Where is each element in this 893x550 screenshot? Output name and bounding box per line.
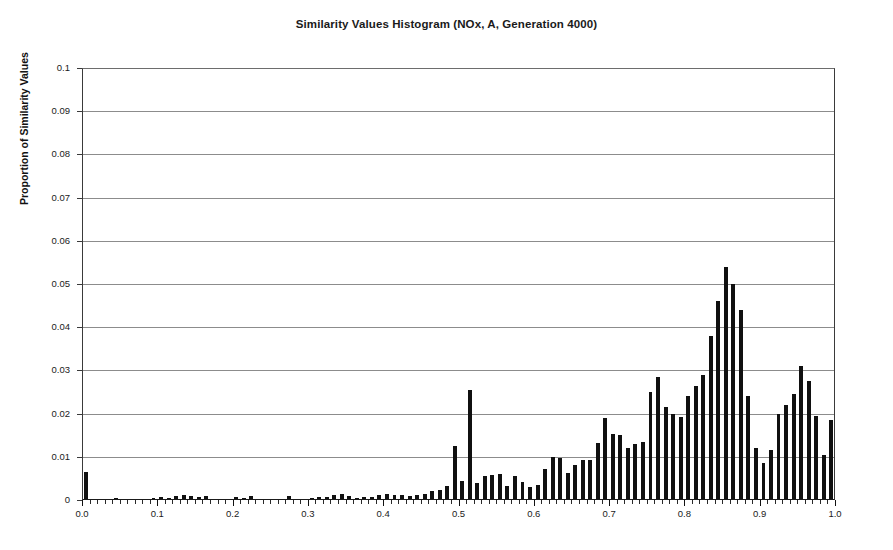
- x-tick-mark: [632, 500, 633, 504]
- x-tick-mark: [587, 500, 588, 504]
- plot-area: [82, 68, 835, 500]
- x-tick-mark: [820, 500, 821, 504]
- y-tick-mark: [77, 284, 82, 285]
- x-tick-mark: [692, 500, 693, 504]
- x-tick-mark: [481, 500, 482, 504]
- x-tick-mark: [669, 500, 670, 504]
- x-tick-mark: [398, 500, 399, 504]
- x-tick-mark: [767, 500, 768, 504]
- x-tick-mark: [428, 500, 429, 504]
- x-tick-mark: [120, 500, 121, 504]
- x-tick-mark: [240, 500, 241, 504]
- x-tick-mark: [662, 500, 663, 504]
- x-tick-mark: [421, 500, 422, 504]
- x-tick-mark-major: [383, 500, 384, 506]
- x-tick-mark: [677, 500, 678, 504]
- x-tick-mark: [285, 500, 286, 504]
- plot-frame: [82, 68, 835, 500]
- y-tick-mark: [77, 370, 82, 371]
- x-tick-mark: [602, 500, 603, 504]
- x-tick-label: 0.4: [363, 508, 403, 519]
- x-tick-mark: [737, 500, 738, 504]
- x-tick-mark: [376, 500, 377, 504]
- x-tick-mark: [255, 500, 256, 504]
- x-tick-mark: [504, 500, 505, 504]
- x-tick-mark: [797, 500, 798, 504]
- x-tick-mark: [210, 500, 211, 504]
- x-tick-label: 0.3: [288, 508, 328, 519]
- x-tick-label: 0.5: [439, 508, 479, 519]
- x-tick-mark: [556, 500, 557, 504]
- x-tick-mark-major: [82, 500, 83, 506]
- y-tick-label: 0: [6, 495, 70, 505]
- y-tick-label: 0.04: [6, 322, 70, 332]
- x-tick-mark: [225, 500, 226, 504]
- x-tick-mark: [617, 500, 618, 504]
- x-tick-mark: [451, 500, 452, 504]
- x-tick-mark: [248, 500, 249, 504]
- x-tick-mark: [707, 500, 708, 504]
- x-tick-mark: [647, 500, 648, 504]
- x-tick-mark: [391, 500, 392, 504]
- x-tick-mark: [579, 500, 580, 504]
- x-tick-mark: [730, 500, 731, 504]
- x-tick-mark: [654, 500, 655, 504]
- x-tick-mark-major: [835, 500, 836, 506]
- x-tick-mark: [805, 500, 806, 504]
- x-tick-mark: [571, 500, 572, 504]
- x-tick-mark: [165, 500, 166, 504]
- x-tick-mark: [172, 500, 173, 504]
- x-tick-mark: [90, 500, 91, 504]
- x-tick-mark: [300, 500, 301, 504]
- x-tick-mark: [368, 500, 369, 504]
- y-tick-label: 0.01: [6, 452, 70, 462]
- x-tick-mark: [413, 500, 414, 504]
- x-tick-mark: [722, 500, 723, 504]
- x-tick-mark: [752, 500, 753, 504]
- y-axis-tick-labels: 0.10.090.080.070.060.050.040.030.020.010: [0, 68, 76, 500]
- x-tick-label: 0.2: [213, 508, 253, 519]
- x-tick-mark: [346, 500, 347, 504]
- y-tick-mark: [77, 500, 82, 501]
- x-tick-mark: [263, 500, 264, 504]
- x-tick-mark: [564, 500, 565, 504]
- x-tick-mark: [406, 500, 407, 504]
- x-tick-mark: [150, 500, 151, 504]
- x-tick-mark: [270, 500, 271, 504]
- x-tick-mark: [526, 500, 527, 504]
- x-tick-label: 0.9: [740, 508, 780, 519]
- x-tick-mark-major: [534, 500, 535, 506]
- y-tick-mark: [77, 111, 82, 112]
- histogram-chart: Similarity Values Histogram (NOx, A, Gen…: [0, 0, 893, 550]
- x-tick-mark: [699, 500, 700, 504]
- x-tick-mark: [443, 500, 444, 504]
- y-tick-mark: [77, 241, 82, 242]
- x-tick-mark: [549, 500, 550, 504]
- y-tick-mark: [77, 68, 82, 69]
- x-tick-label: 0.8: [664, 508, 704, 519]
- x-axis-ticks: [82, 500, 835, 506]
- x-tick-mark: [195, 500, 196, 504]
- x-tick-mark: [812, 500, 813, 504]
- x-tick-mark: [180, 500, 181, 504]
- x-tick-mark: [624, 500, 625, 504]
- y-tick-mark: [77, 457, 82, 458]
- x-tick-label: 1.0: [815, 508, 855, 519]
- y-tick-label: 0.05: [6, 279, 70, 289]
- y-tick-label: 0.02: [6, 409, 70, 419]
- x-tick-mark: [496, 500, 497, 504]
- x-tick-mark: [135, 500, 136, 504]
- x-tick-mark: [187, 500, 188, 504]
- x-tick-mark-major: [308, 500, 309, 506]
- x-tick-mark: [489, 500, 490, 504]
- x-tick-mark: [353, 500, 354, 504]
- chart-title: Similarity Values Histogram (NOx, A, Gen…: [0, 18, 893, 30]
- x-tick-mark: [775, 500, 776, 504]
- y-tick-label: 0.03: [6, 365, 70, 375]
- y-tick-label: 0.07: [6, 193, 70, 203]
- y-tick-label: 0.1: [6, 63, 70, 73]
- x-tick-mark: [827, 500, 828, 504]
- y-tick-label: 0.09: [6, 106, 70, 116]
- x-tick-mark: [541, 500, 542, 504]
- y-tick-mark: [77, 327, 82, 328]
